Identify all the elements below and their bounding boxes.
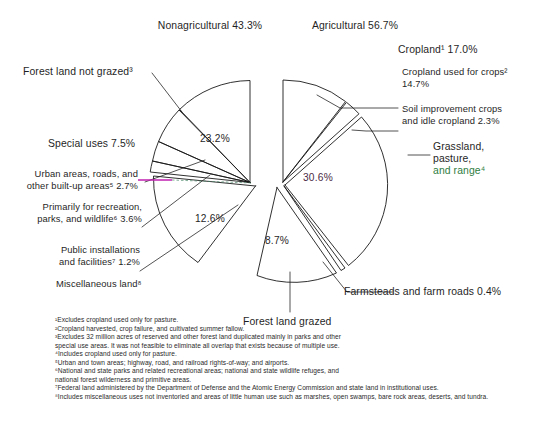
label-grassland-line1: Grassland, (433, 141, 484, 154)
label-grassland-line3: and range⁴ (433, 165, 485, 178)
header-agricultural: Agricultural 56.7% (275, 20, 435, 33)
label-miscellaneous-land: Miscellaneous land⁸ (56, 278, 142, 290)
footnote-3: ³Excludes 32 million acres of reserved a… (55, 333, 525, 350)
slice-soil-improvement-crops (283, 102, 359, 182)
leader-recreation (145, 160, 205, 182)
value-grassland-pasture-range: 30.6% (303, 172, 333, 183)
slice-cropland-used-for-crops (283, 80, 346, 182)
label-special-uses: Special uses 7.5% (48, 138, 135, 151)
footnote-8: ⁸Includes miscellaneous uses not invento… (55, 393, 525, 402)
slice-recreation (153, 142, 251, 183)
footnotes-block: ¹Excludes cropland used only for pasture… (55, 316, 525, 401)
leader-soil-improvement (352, 130, 398, 131)
slice-forest-land-not-grazed (180, 81, 251, 183)
leader-cropland-used-for-crops (317, 95, 398, 108)
footnote-7: ⁷Federal land administered by the Depart… (55, 384, 525, 393)
slice-public-installations (150, 161, 250, 183)
slice-grassland-pasture-range (285, 117, 388, 266)
value-forest-land-not-grazed: 23.2% (200, 133, 230, 144)
chart-canvas: Nonagricultural 43.3% Agricultural 56.7%… (0, 0, 535, 430)
slice-urban-areas (159, 110, 251, 183)
footnote-5: ⁵Urban and town areas; highway, road, an… (55, 359, 525, 368)
label-grassland-line2: pasture, (433, 153, 471, 166)
footnote-6: ⁶National and state parks and related re… (55, 367, 525, 384)
value-miscellaneous-land: 12.6% (195, 213, 225, 224)
label-urban-areas: Urban areas, roads, and other built-up a… (8, 168, 138, 191)
footnote-1: ¹Excludes cropland used only for pasture… (55, 316, 525, 325)
footnote-4: ⁴Includes cropland used only for pasture… (55, 350, 525, 359)
label-cropland-used-for-crops: Cropland used for crops² 14.7% (402, 66, 534, 89)
label-forest-land-not-grazed: Forest land not grazed³ (23, 66, 133, 79)
slice-farmsteads-and-farm-roads (284, 186, 345, 271)
leader-urban-areas-dashed (172, 180, 252, 183)
leader-forest-not-grazed (152, 73, 182, 112)
label-soil-improvement-crops: Soil improvement crops and idle cropland… (402, 103, 534, 126)
footnote-2: ²Cropland harvested, crop failure, and c… (55, 325, 525, 334)
label-public-installations: Public installations and facilities⁷ 1.2… (30, 244, 140, 267)
value-forest-land-grazed: 8.7% (265, 235, 289, 246)
leader-lines (140, 73, 430, 312)
label-primarily-for-recreation: Primarily for recreation, parks, and wil… (20, 201, 142, 224)
label-farmsteads-and-farm-roads: Farmsteads and farm roads 0.4% (344, 286, 501, 299)
label-cropland: Cropland¹ 17.0% (398, 44, 477, 57)
